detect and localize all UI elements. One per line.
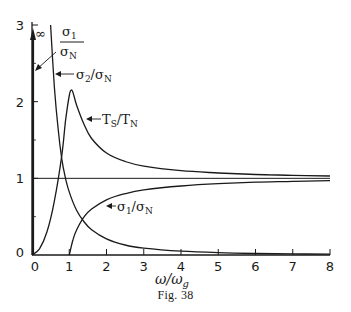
svg-text:σN: σN xyxy=(60,44,77,61)
y-tick-label: 3 xyxy=(16,18,24,33)
arrow-icon xyxy=(55,71,61,77)
svg-text:σ1/σN: σ1/σN xyxy=(117,199,153,216)
svg-text:σ2/σN: σ2/σN xyxy=(76,67,112,84)
x-tick-label: 7 xyxy=(289,259,297,274)
y-tick-label: 1 xyxy=(16,171,24,186)
annotation-ts-tn: TS/TN xyxy=(86,112,138,129)
figure-caption: Fig. 38 xyxy=(0,288,351,303)
x-tick-label: 1 xyxy=(65,259,73,274)
y-tick-label: 0 xyxy=(16,245,24,260)
svg-text:σ1: σ1 xyxy=(62,24,77,41)
x-tick-label: 2 xyxy=(102,259,110,274)
x-tick-label: 0 xyxy=(31,259,39,274)
x-tick-label: 8 xyxy=(326,259,334,274)
x-tick-label: 5 xyxy=(214,259,222,274)
annotation-sigma1: σ1/σN xyxy=(106,199,153,216)
annotation-sigma2: σ2/σN xyxy=(55,67,112,84)
infinity-symbol: ∞ xyxy=(35,26,46,41)
svg-text:TS/TN: TS/TN xyxy=(102,112,138,129)
chart: 0123456780123 ∞ σ1 σN σ2/σN TS/TN σ1/σN … xyxy=(0,0,351,312)
x-tick-label: 6 xyxy=(251,259,259,274)
y-tick-label: 2 xyxy=(16,95,24,110)
arrow-icon xyxy=(86,116,92,122)
arrow-icon xyxy=(106,203,112,209)
sigma1-curve xyxy=(69,181,330,255)
x-tick-label: 3 xyxy=(140,259,148,274)
